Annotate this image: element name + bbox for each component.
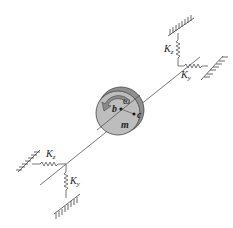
label-ky-top: Ky — [180, 69, 192, 82]
ground-hatch-top — [168, 15, 194, 36]
rotor-disk: ω b c m — [96, 87, 144, 135]
label-b: b — [112, 103, 117, 114]
label-ky-bottom: Ky — [69, 175, 81, 188]
spring-kz-top — [176, 33, 180, 66]
top-right-support: Kz Ky — [163, 15, 228, 82]
ground-hatch-left — [16, 150, 40, 172]
ground-hatch-right — [201, 56, 228, 80]
ground-hatch-bottom — [54, 194, 80, 219]
label-m: m — [121, 119, 129, 130]
bottom-left-support: Kz Ky — [16, 148, 81, 219]
point-c — [133, 113, 136, 116]
label-c: c — [137, 109, 142, 120]
spring-ky-top — [178, 64, 208, 68]
rotor-diagram: Kz Ky ω b c m — [0, 0, 233, 228]
label-kz-bottom: Kz — [45, 148, 56, 161]
spring-kz-bottom — [32, 162, 66, 166]
spring-ky-bottom — [64, 164, 68, 198]
label-kz-top: Kz — [163, 43, 174, 56]
label-omega: ω — [123, 95, 130, 106]
